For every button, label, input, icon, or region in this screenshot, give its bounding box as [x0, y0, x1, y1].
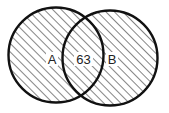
- set-a-label: A: [48, 52, 57, 67]
- intersection-label: 63: [76, 52, 90, 67]
- set-b-label: B: [108, 52, 117, 67]
- venn-diagram: A 63 B: [0, 0, 169, 113]
